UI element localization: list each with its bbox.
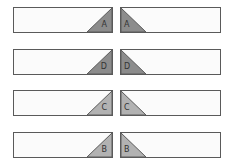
strip-right-c: C — [120, 90, 221, 116]
strip-left-c: C — [13, 90, 113, 116]
corner-label: C — [101, 103, 107, 112]
strip-left-d: D — [13, 49, 113, 75]
strip-left-a: A — [13, 7, 113, 33]
corner-label: D — [101, 62, 107, 71]
corner-label: D — [124, 62, 130, 71]
corner-triangle — [14, 8, 112, 32]
strip-right-b: B — [120, 132, 221, 158]
corner-triangle — [121, 50, 220, 74]
corner-triangle — [121, 8, 220, 32]
corner-triangle — [121, 91, 220, 115]
corner-triangle — [14, 50, 112, 74]
corner-triangle — [121, 133, 220, 157]
corner-triangle — [14, 91, 112, 115]
corner-label: C — [124, 103, 130, 112]
corner-label: B — [102, 145, 108, 154]
corner-triangle — [14, 133, 112, 157]
strip-left-b: B — [13, 132, 113, 158]
strip-right-d: D — [120, 49, 221, 75]
corner-label: B — [124, 145, 130, 154]
corner-label: A — [102, 20, 107, 29]
corner-label: A — [124, 20, 129, 29]
strip-right-a: A — [120, 7, 221, 33]
